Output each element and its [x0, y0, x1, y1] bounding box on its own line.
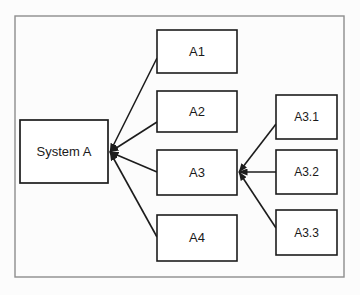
connector-a3-to-system-a — [110, 152, 157, 172]
node-label-a3: A3 — [189, 165, 205, 180]
diagram-svg: System AA1A2A3A4A3.1A3.2A3.3 — [0, 0, 360, 295]
node-label-system-a: System A — [37, 144, 92, 159]
node-a2[interactable]: A2 — [157, 91, 237, 132]
node-system-a[interactable]: System A — [20, 120, 108, 183]
diagram-canvas: System AA1A2A3A4A3.1A3.2A3.3 — [0, 0, 360, 295]
node-a32[interactable]: A3.2 — [276, 150, 337, 194]
node-layer: System AA1A2A3A4A3.1A3.2A3.3 — [20, 30, 337, 261]
node-label-a2: A2 — [189, 104, 205, 119]
node-label-a31: A3.1 — [294, 110, 319, 124]
connector-a33-to-a3 — [239, 172, 276, 228]
node-label-a32: A3.2 — [294, 165, 319, 179]
node-label-a1: A1 — [189, 44, 205, 59]
node-label-a4: A4 — [189, 230, 205, 245]
connector-a4-to-system-a — [110, 152, 157, 237]
connector-layer — [110, 58, 276, 237]
connector-a31-to-a3 — [239, 124, 276, 172]
node-a1[interactable]: A1 — [157, 30, 237, 73]
node-a31[interactable]: A3.1 — [276, 95, 337, 139]
node-a4[interactable]: A4 — [157, 215, 237, 261]
node-label-a33: A3.3 — [294, 226, 319, 240]
node-a3[interactable]: A3 — [157, 150, 237, 195]
node-a33[interactable]: A3.3 — [276, 210, 337, 255]
